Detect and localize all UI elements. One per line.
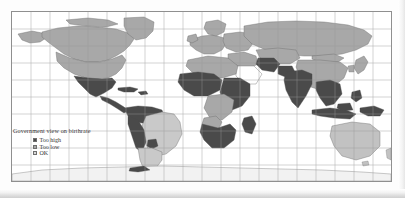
legend-item-too-high: Too high: [33, 137, 131, 143]
legend-label-too-low: Too low: [40, 144, 60, 150]
legend-items: Too high Too low OK: [13, 137, 131, 156]
legend-label-too-high: Too high: [40, 137, 61, 143]
region-korea: [348, 65, 354, 72]
map-legend: Government view on birthrate Too high To…: [13, 127, 131, 157]
legend-title: Government view on birthrate: [13, 127, 131, 135]
legend-item-ok: OK: [33, 150, 131, 156]
legend-swatch-ok: [33, 151, 37, 155]
legend-item-too-low: Too low: [33, 144, 131, 150]
figure-page: Government view on birthrate Too high To…: [0, 0, 405, 198]
scan-edge-right: [398, 0, 405, 198]
scan-edge-bottom: [0, 189, 405, 198]
legend-swatch-too-low: [33, 145, 37, 149]
legend-swatch-too-high: [33, 138, 37, 142]
legend-label-ok: OK: [40, 150, 49, 156]
